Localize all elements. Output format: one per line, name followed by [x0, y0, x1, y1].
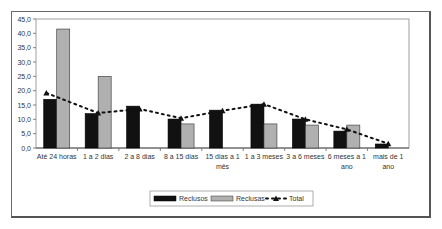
y-tick-label: 0,0 [21, 145, 31, 152]
y-tick-label: 5,0 [21, 130, 31, 137]
bar-reclusas [347, 125, 360, 148]
y-tick-label: 10,0 [17, 116, 31, 123]
x-category-label: 6 meses a 1 [328, 153, 366, 160]
y-tick-label: 45,0 [17, 16, 31, 23]
x-category-label: mais de 1 [373, 153, 403, 160]
y-tick-label: 15,0 [17, 102, 31, 109]
y-tick-label: 40,0 [17, 30, 31, 37]
x-category-label: mês [216, 163, 230, 170]
y-tick-label: 30,0 [17, 59, 31, 66]
x-category-label: 15 dias a 1 [205, 153, 239, 160]
legend-swatch-reclusos [154, 196, 176, 201]
bar-reclusos [292, 119, 305, 148]
y-tick-label: 35,0 [17, 44, 31, 51]
y-tick-label: 20,0 [17, 87, 31, 94]
x-category-label: ano [341, 163, 353, 170]
bar-reclusos [210, 110, 223, 148]
bar-reclusos [127, 106, 140, 148]
bar-reclusas [57, 29, 70, 148]
x-category-label: Até 24 horas [37, 153, 77, 160]
bar-reclusos [168, 119, 181, 148]
legend-swatch-reclusas [211, 196, 233, 201]
total-marker-triangle [385, 141, 391, 147]
bar-reclusas [305, 125, 318, 148]
bar-reclusos [44, 99, 57, 148]
x-category-label: 1 a 2 dias [83, 153, 114, 160]
bar-reclusas [264, 124, 277, 148]
legend-label-reclusos: Reclusos [179, 195, 208, 202]
x-category-label: 3 a 6 meses [286, 153, 325, 160]
x-category-label: 8 a 15 dias [164, 153, 199, 160]
y-tick-label: 25,0 [17, 73, 31, 80]
x-category-label: 2 a 8 dias [124, 153, 155, 160]
bar-reclusos [85, 114, 98, 148]
bar-reclusos [334, 131, 347, 148]
bar-reclusas [181, 124, 194, 148]
bar-line-chart: 0,05,010,015,020,025,030,035,040,045,0At… [0, 0, 442, 229]
legend-label-reclusas: Reclusas [236, 195, 265, 202]
legend-label-total: Total [289, 195, 304, 202]
x-category-label: 1 a 3 meses [245, 153, 284, 160]
bar-reclusos [251, 104, 264, 148]
x-category-label: ano [382, 163, 394, 170]
